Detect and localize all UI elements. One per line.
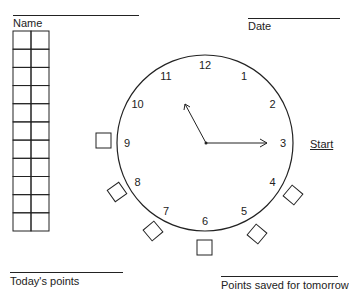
clock-center-dot: [205, 142, 208, 145]
clock-number-1: 1: [241, 70, 247, 82]
start-label: Start: [310, 138, 333, 150]
clock-number-5: 5: [241, 205, 247, 217]
todays-points-label: Today's points: [10, 275, 79, 287]
clock-number-12: 12: [199, 59, 211, 71]
checkbox-5[interactable]: [247, 224, 267, 244]
checkbox-8[interactable]: [107, 182, 126, 201]
clock-number-3: 3: [280, 137, 286, 149]
hour-hand: [185, 104, 206, 143]
saved-points-line[interactable]: [221, 276, 338, 277]
clock-number-4: 4: [269, 176, 275, 188]
clock-number-9: 9: [124, 137, 130, 149]
clock-face: 121234567891011: [0, 0, 349, 299]
checkbox-4[interactable]: [283, 185, 303, 205]
clock-number-8: 8: [134, 176, 140, 188]
checkbox-9[interactable]: [96, 133, 111, 148]
checkbox-6[interactable]: [197, 240, 212, 255]
todays-points-line[interactable]: [10, 272, 123, 273]
clock-number-2: 2: [269, 98, 275, 110]
clock-number-7: 7: [163, 205, 169, 217]
clock-number-10: 10: [131, 98, 143, 110]
clock-number-11: 11: [160, 70, 171, 82]
checkbox-7[interactable]: [143, 221, 163, 241]
clock-number-6: 6: [202, 215, 208, 227]
saved-points-label: Points saved for tomorrow: [221, 279, 349, 291]
